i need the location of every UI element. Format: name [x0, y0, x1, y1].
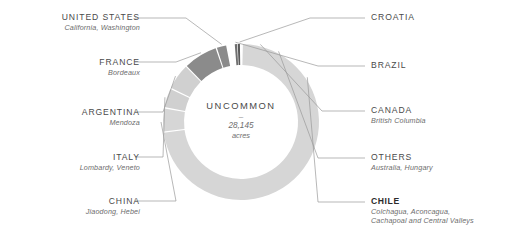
- callout-sub-china: Jiaodong, Hebei: [4, 207, 140, 216]
- callout-sub-others: Australia, Hungary: [371, 163, 511, 172]
- callout-sub-italy: Lombardy, Veneto: [4, 163, 140, 172]
- callout-name-france: FRANCE: [4, 57, 140, 68]
- callout-name-italy: ITALY: [4, 152, 140, 163]
- center-value: 28,145: [186, 121, 296, 131]
- callout-sub-united-states: California, Washington: [4, 23, 140, 32]
- infographic-canvas: UNCOMMON – 28,145 acres UNITED STATES Ca…: [0, 0, 512, 246]
- callout-name-canada: CANADA: [371, 105, 511, 116]
- callout-sub-france: Bordeaux: [4, 68, 140, 77]
- center-unit: acres: [186, 131, 296, 140]
- callout-sub-argentina: Mendoza: [4, 118, 140, 127]
- callout-canada[interactable]: CANADA British Columbia: [371, 105, 511, 125]
- callout-sub-chile: Colchagua, Aconcagua, Cachapoal and Cent…: [371, 207, 512, 225]
- callout-others[interactable]: OTHERS Australia, Hungary: [371, 152, 511, 172]
- leader-line-argentina: [135, 76, 175, 112]
- callout-chile[interactable]: CHILE Colchagua, Aconcagua, Cachapoal an…: [371, 196, 512, 225]
- callout-name-others: OTHERS: [371, 152, 511, 163]
- leader-line-croatia: [240, 18, 365, 42]
- callout-name-china: CHINA: [4, 196, 140, 207]
- callout-name-croatia: CROATIA: [371, 12, 511, 23]
- leader-line-france: [135, 53, 201, 62]
- callout-name-brazil: BRAZIL: [371, 60, 511, 71]
- callout-name-united-states: UNITED STATES: [4, 12, 140, 23]
- center-divider: –: [186, 112, 296, 121]
- leader-line-chile: [307, 77, 365, 202]
- callout-brazil[interactable]: BRAZIL: [371, 60, 511, 71]
- callout-china[interactable]: CHINA Jiaodong, Hebei: [4, 196, 140, 216]
- callout-italy[interactable]: ITALY Lombardy, Veneto: [4, 152, 140, 172]
- donut-center-label: UNCOMMON – 28,145 acres: [186, 100, 296, 140]
- leader-line-china: [135, 122, 176, 201]
- callout-sub-canada: British Columbia: [371, 116, 511, 125]
- callout-france[interactable]: FRANCE Bordeaux: [4, 57, 140, 77]
- callout-name-argentina: ARGENTINA: [4, 107, 140, 118]
- center-title: UNCOMMON: [186, 100, 296, 112]
- leader-line-united-states: [135, 18, 222, 44]
- callout-name-chile: CHILE: [371, 196, 512, 207]
- callout-argentina[interactable]: ARGENTINA Mendoza: [4, 107, 140, 127]
- callout-croatia[interactable]: CROATIA: [371, 12, 511, 23]
- leader-line-brazil: [235, 42, 365, 66]
- callout-united-states[interactable]: UNITED STATES California, Washington: [4, 12, 140, 32]
